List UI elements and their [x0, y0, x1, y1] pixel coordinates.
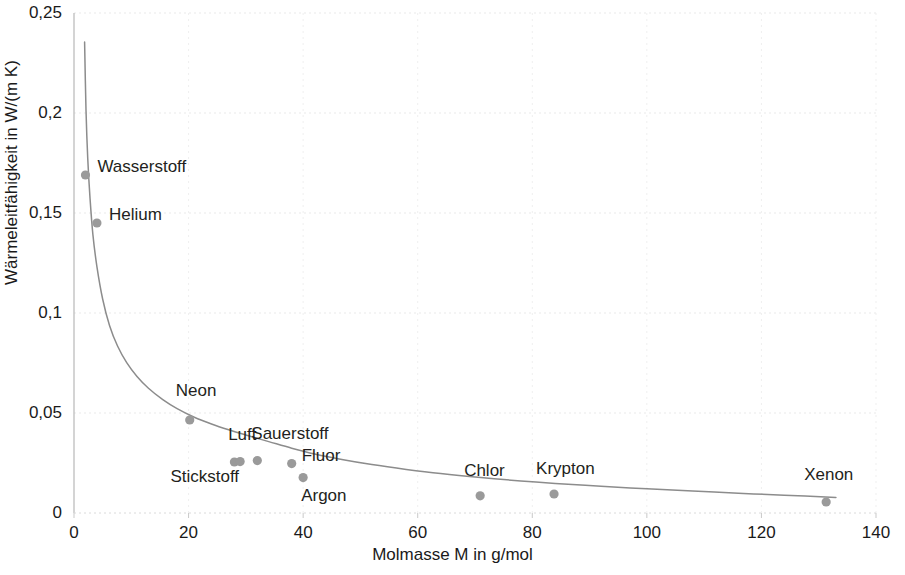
y-axis-title: Wärmeleitfähigkeit in W/(m K): [2, 60, 22, 285]
x-axis-tick-label: 0: [69, 523, 78, 543]
data-point-marker: [476, 491, 485, 500]
x-axis-tick-label: 20: [179, 523, 198, 543]
data-point-markers: [81, 170, 831, 506]
axis-lines: [74, 13, 876, 518]
data-point-marker: [549, 489, 558, 498]
data-point-marker: [287, 459, 296, 468]
x-axis-tick-label: 60: [408, 523, 427, 543]
data-point-marker: [81, 170, 90, 179]
x-axis-tick-label: 40: [294, 523, 313, 543]
data-point-marker: [236, 457, 245, 466]
x-axis-tick-label: 80: [523, 523, 542, 543]
data-point-marker: [253, 456, 262, 465]
x-axis-tick-label: 120: [747, 523, 775, 543]
chart-plot-area: [0, 0, 905, 575]
y-axis-tick-label: 0,25: [0, 3, 62, 23]
data-point-label: Xenon: [804, 465, 853, 485]
data-point-marker: [822, 497, 831, 506]
data-point-marker: [185, 415, 194, 424]
data-point-label: Sauerstoff: [251, 424, 328, 444]
thermal-conductivity-scatter-chart: 00,050,10,150,20,25 020406080100120140 W…: [0, 0, 905, 575]
y-axis-tick-label: 0,1: [0, 303, 62, 323]
data-point-label: Wasserstoff: [97, 157, 186, 177]
data-point-label: Helium: [109, 205, 162, 225]
trend-curve: [85, 42, 836, 497]
x-axis-tick-label: 140: [862, 523, 890, 543]
y-axis-tick-label: 0,05: [0, 403, 62, 423]
data-point-marker: [299, 473, 308, 482]
x-axis-tick-label: 100: [633, 523, 661, 543]
data-point-label: Krypton: [536, 459, 595, 479]
data-point-label: Argon: [301, 486, 346, 506]
data-point-label: Chlor: [464, 461, 505, 481]
x-axis-title: Molmasse M in g/mol: [0, 545, 905, 565]
y-axis-tick-label: 0: [0, 503, 62, 523]
data-point-label: Stickstoff: [170, 467, 239, 487]
data-point-label: Neon: [176, 381, 217, 401]
data-point-marker: [92, 218, 101, 227]
data-point-label: Fluor: [302, 446, 341, 466]
gridlines: [74, 13, 876, 513]
